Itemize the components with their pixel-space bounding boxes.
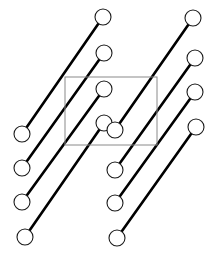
atom-circle bbox=[14, 160, 30, 176]
atom-circle bbox=[185, 10, 201, 26]
atom-circle bbox=[188, 119, 204, 135]
atom-circle bbox=[96, 81, 112, 97]
atom-circle bbox=[107, 162, 123, 178]
atom-circle bbox=[109, 230, 125, 246]
atom-circle bbox=[14, 126, 30, 142]
atom-circle bbox=[107, 122, 123, 138]
atom-circle bbox=[95, 9, 111, 25]
atom-circle bbox=[187, 84, 203, 100]
lattice-canvas bbox=[0, 0, 217, 260]
lattice-figure bbox=[0, 0, 217, 260]
atom-circle bbox=[17, 229, 33, 245]
atom-circle bbox=[187, 50, 203, 66]
bond-line bbox=[22, 17, 103, 134]
bond-line bbox=[22, 53, 104, 168]
atom-circle bbox=[96, 45, 112, 61]
atom-circle bbox=[14, 194, 30, 210]
atom-circle bbox=[107, 195, 123, 211]
